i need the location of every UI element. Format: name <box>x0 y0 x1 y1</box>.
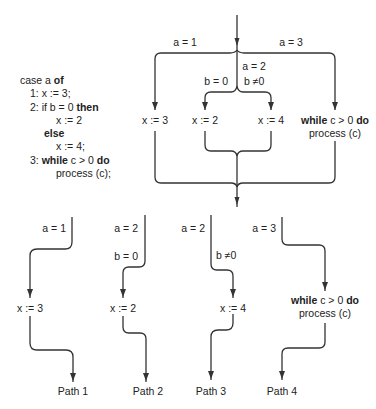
path-2: a = 2 b = 0 x := 2 Path 2 <box>110 215 163 397</box>
path-3-arrowhead-out <box>208 371 214 379</box>
path-2-arrowhead-in <box>120 289 126 297</box>
label-bne0: b ≠0 <box>244 75 265 87</box>
path-1-statement: x := 3 <box>17 302 43 314</box>
path-4-edge-in <box>282 217 325 291</box>
inner-merge-left <box>205 131 237 156</box>
path-2-condition-b: b = 0 <box>114 250 138 262</box>
entry-arrowhead <box>235 38 240 46</box>
path-3-statement: x := 4 <box>220 302 246 314</box>
node-process: process (c) <box>309 127 361 139</box>
path-4-while-keyword: while <box>290 294 317 306</box>
path-4-arrowhead-in <box>322 282 328 290</box>
path-4-edge-out <box>282 323 325 380</box>
while-condition: c > 0 <box>327 114 356 126</box>
while-keyword: while <box>300 114 327 126</box>
path-4-condition: a = 3 <box>252 222 276 234</box>
b0-arrowhead <box>202 102 208 110</box>
path-3-edge-out <box>211 314 233 380</box>
path-2-arrowhead-out <box>143 373 149 381</box>
path-4-while-condition: c > 0 <box>317 294 346 306</box>
outer-merge-left <box>155 131 237 187</box>
path-4-do-keyword: do <box>346 294 359 306</box>
path-1-arrowhead-in <box>27 289 33 297</box>
bne0-arrowhead <box>268 102 274 110</box>
path-2-condition-a: a = 2 <box>114 222 138 234</box>
path-4-arrowhead-out <box>279 371 285 379</box>
do-keyword: do <box>356 114 369 126</box>
path-4: a = 3 while c > 0 do process (c) Path 4 <box>252 217 359 397</box>
label-a1: a = 1 <box>173 36 197 48</box>
a1-arrowhead <box>152 102 158 110</box>
path-4-statement-process: process (c) <box>299 307 351 319</box>
label-a3: a = 3 <box>279 36 303 48</box>
path-2-label: Path 2 <box>133 385 164 397</box>
path-4-label: Path 4 <box>267 385 298 397</box>
label-a2: a = 2 <box>242 60 266 72</box>
path-3-condition-a: a = 2 <box>181 222 205 234</box>
path-1-label: Path 1 <box>58 385 89 397</box>
a3-arrowhead <box>332 102 338 110</box>
path-3-condition-b: b ≠0 <box>216 249 237 261</box>
path-3: a = 2 b ≠0 x := 4 Path 3 <box>181 215 246 397</box>
path-1-arrowhead-out <box>70 373 76 381</box>
label-b0: b = 0 <box>204 75 228 87</box>
flow-graph: a = 1 a = 3 a = 2 b = 0 b ≠0 x := 3 x :=… <box>142 15 369 207</box>
control-flow-diagram: a = 1 a = 3 a = 2 b = 0 b ≠0 x := 3 x :=… <box>0 0 376 409</box>
path-1-condition: a = 1 <box>42 222 66 234</box>
path-2-edge-out <box>123 316 146 382</box>
path-1: a = 1 x := 3 Path 1 <box>17 217 88 397</box>
node-x3: x := 3 <box>142 114 168 126</box>
path-3-label: Path 3 <box>196 385 227 397</box>
inner-merge-right <box>237 131 271 156</box>
node-x2: x := 2 <box>192 114 218 126</box>
path-3-arrowhead-in <box>230 289 236 297</box>
path-2-statement: x := 2 <box>110 302 136 314</box>
path-1-edge-out <box>30 316 73 382</box>
path-4-statement-while: while c > 0 do <box>290 294 359 306</box>
bne0-edge <box>237 86 271 110</box>
b0-edge <box>205 86 237 110</box>
exit-arrowhead <box>235 197 240 205</box>
outer-merge-right <box>237 141 335 187</box>
node-x4: x := 4 <box>258 114 284 126</box>
node-while: while c > 0 do <box>300 114 369 126</box>
